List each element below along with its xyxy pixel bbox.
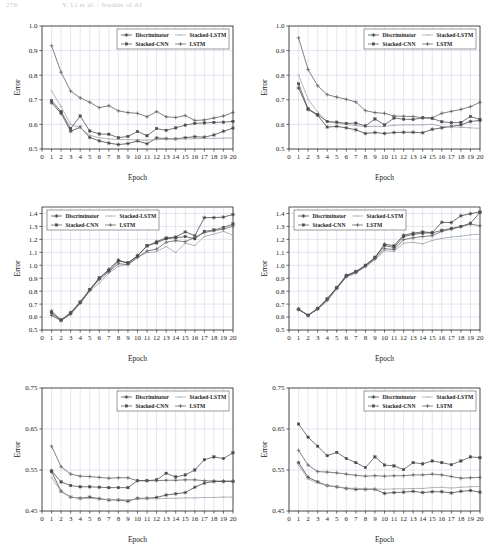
x-tick-label: 10 — [381, 515, 389, 523]
x-tick-label: 20 — [230, 334, 238, 342]
x-tick-label: 17 — [448, 153, 456, 161]
x-tick-label: 19 — [467, 334, 475, 342]
x-tick-label: 17 — [448, 334, 456, 342]
y-tick-label: 0.5 — [276, 326, 285, 334]
x-tick-label: 19 — [220, 515, 228, 523]
y-tick-label: 0.7 — [29, 301, 38, 309]
x-tick-label: 1 — [297, 153, 301, 161]
x-tick-label: 10 — [381, 334, 389, 342]
y-tick-label: 0.8 — [29, 72, 38, 80]
x-tick-label: 3 — [316, 153, 320, 161]
legend-label: Stacked-CNN — [383, 403, 416, 409]
x-tick-label: 8 — [364, 153, 368, 161]
legend-label: Stacked-LSTM — [190, 394, 227, 400]
legend-label: Discriminator — [383, 32, 417, 38]
x-tick-label: 15 — [182, 334, 190, 342]
x-tick-label: 17 — [201, 153, 209, 161]
y-tick-label: 1.0 — [29, 262, 38, 270]
x-tick-label: 18 — [457, 334, 465, 342]
x-tick-label: 19 — [220, 153, 228, 161]
x-tick-label: 12 — [153, 153, 161, 161]
legend-label: LSTM — [437, 403, 454, 409]
x-tick-label: 14 — [419, 334, 427, 342]
x-axis-title: Epoch — [375, 535, 394, 544]
y-tick-label: 0.45 — [25, 507, 38, 515]
x-tick-label: 6 — [98, 153, 102, 161]
y-tick-label: 0.8 — [29, 288, 38, 296]
y-tick-label: 1.4 — [276, 210, 285, 218]
chart-panel-top-right: 0.50.60.70.80.91.00123456789101112131415… — [247, 8, 494, 189]
x-tick-label: 6 — [345, 334, 349, 342]
x-tick-label: 0 — [40, 153, 44, 161]
y-axis-title: Error — [260, 260, 269, 276]
x-tick-label: 8 — [117, 334, 121, 342]
chart-panel-top-left: 0.50.60.70.80.91.00123456789101112131415… — [0, 8, 247, 189]
x-tick-label: 8 — [364, 515, 368, 523]
x-tick-label: 16 — [191, 153, 199, 161]
legend-label: Discriminator — [313, 213, 347, 219]
y-tick-label: 0.9 — [29, 47, 38, 55]
y-axis-title: Error — [13, 441, 22, 457]
legend-label: Stacked-CNN — [136, 41, 169, 47]
x-tick-label: 1 — [50, 334, 54, 342]
y-tick-label: 0.5 — [29, 326, 38, 334]
x-tick-label: 7 — [354, 153, 358, 161]
x-tick-label: 3 — [69, 334, 73, 342]
y-tick-label: 0.6 — [29, 121, 38, 129]
x-tick-label: 6 — [345, 153, 349, 161]
legend-label: Stacked-LSTM — [437, 394, 474, 400]
x-tick-label: 18 — [210, 515, 218, 523]
x-tick-label: 13 — [163, 334, 171, 342]
x-tick-label: 12 — [153, 515, 161, 523]
x-tick-label: 2 — [306, 153, 310, 161]
chart-mid-left: 0.50.60.70.80.91.01.11.21.31.40123456789… — [0, 189, 247, 370]
x-tick-label: 7 — [107, 153, 111, 161]
y-axis-title: Error — [260, 441, 269, 457]
x-tick-label: 10 — [134, 153, 142, 161]
x-tick-label: 7 — [354, 334, 358, 342]
x-tick-label: 7 — [107, 515, 111, 523]
x-tick-label: 2 — [59, 334, 63, 342]
x-tick-label: 0 — [40, 334, 44, 342]
y-tick-label: 0.65 — [25, 425, 38, 433]
x-tick-label: 3 — [316, 515, 320, 523]
x-tick-label: 11 — [391, 153, 398, 161]
legend-label: Discriminator — [136, 394, 170, 400]
x-tick-label: 5 — [335, 515, 339, 523]
x-tick-label: 18 — [210, 334, 218, 342]
y-tick-label: 1.4 — [29, 210, 38, 218]
x-tick-label: 14 — [419, 153, 427, 161]
x-tick-label: 15 — [182, 153, 190, 161]
x-tick-label: 6 — [345, 515, 349, 523]
chart-top-right: 0.50.60.70.80.91.00123456789101112131415… — [247, 8, 494, 189]
x-tick-label: 20 — [477, 515, 485, 523]
chart-panel-bot-left: 0.450.550.650.75012345678910111213141516… — [0, 370, 247, 551]
x-tick-label: 3 — [69, 153, 73, 161]
y-tick-label: 0.9 — [276, 275, 285, 283]
x-tick-label: 16 — [438, 153, 446, 161]
y-tick-label: 1.1 — [29, 249, 38, 257]
x-tick-label: 3 — [69, 515, 73, 523]
x-tick-label: 2 — [306, 515, 310, 523]
y-tick-label: 0.5 — [29, 145, 38, 153]
y-tick-label: 0.75 — [272, 384, 285, 392]
y-tick-label: 0.8 — [276, 288, 285, 296]
x-tick-label: 9 — [126, 153, 130, 161]
x-tick-label: 8 — [117, 515, 121, 523]
x-tick-label: 4 — [78, 153, 82, 161]
y-tick-label: 0.8 — [276, 72, 285, 80]
x-axis-title: Epoch — [375, 354, 394, 363]
y-tick-label: 0.9 — [29, 275, 38, 283]
x-tick-label: 9 — [373, 334, 377, 342]
x-tick-label: 12 — [400, 153, 408, 161]
figure-page: 276 Y. Li et al. / Studies of AI 0.50.60… — [0, 0, 494, 551]
legend-label: Discriminator — [66, 213, 100, 219]
y-tick-label: 1.0 — [29, 22, 38, 30]
x-tick-label: 18 — [210, 153, 218, 161]
x-tick-label: 7 — [107, 334, 111, 342]
x-tick-label: 8 — [117, 153, 121, 161]
x-tick-label: 9 — [126, 334, 130, 342]
x-tick-label: 4 — [325, 153, 329, 161]
x-tick-label: 4 — [325, 515, 329, 523]
chart-grid: 0.50.60.70.80.91.00123456789101112131415… — [0, 8, 494, 551]
